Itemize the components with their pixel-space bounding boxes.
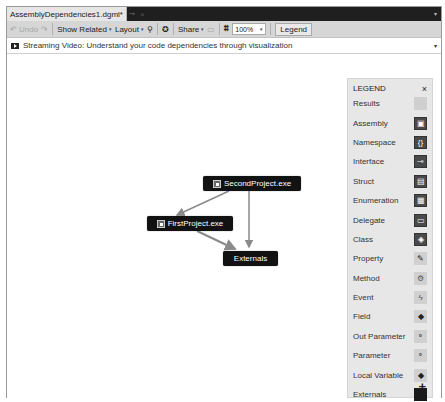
legend-title: LEGEND — [353, 84, 386, 93]
show-related-label: Show Related — [57, 25, 107, 34]
document-tab[interactable]: AssemblyDependencies1.dgml* ⊸ × — [7, 7, 127, 21]
graph-canvas[interactable]: SecondProject.exe FirstProject.exe Exter… — [7, 54, 441, 398]
node-label: Externals — [234, 254, 267, 263]
zoom-to-fit-button[interactable]: ⌗ — [224, 24, 229, 34]
legend-item-label: Interface — [353, 157, 384, 166]
struct-icon: ▤ — [414, 175, 427, 188]
legend-item-delegate[interactable]: Delegate ▭ — [348, 210, 432, 229]
assembly-icon — [157, 220, 165, 228]
legend-item-label: Local Variable — [353, 371, 403, 380]
undo-icon: ↶ — [10, 25, 17, 34]
legend-item-label: Class — [353, 235, 373, 244]
legend-item-class[interactable]: Class ◈ — [348, 230, 432, 249]
event-icon: ϟ — [414, 291, 427, 304]
document-tab-title: AssemblyDependencies1.dgml* — [10, 10, 123, 19]
code-map-settings-button[interactable]: ✪ — [162, 25, 169, 34]
zoom-level-select[interactable]: 100% ▾ — [232, 23, 266, 35]
wrench-icon: ✎ — [414, 252, 427, 265]
legend-item-label: Assembly — [353, 119, 388, 128]
document-tab-bar: AssemblyDependencies1.dgml* ⊸ × ▾ — [7, 7, 441, 21]
interface-icon: ⊸ — [414, 155, 427, 168]
legend-item-out-parameter[interactable]: Out Parameter ⚬ — [348, 327, 432, 346]
node-label: FirstProject.exe — [168, 219, 224, 228]
chevron-down-icon: ▾ — [141, 26, 144, 32]
close-icon[interactable]: × — [422, 84, 427, 94]
toolbar: ↶ Undo ↷ Show Related ▾ Layout ▾ ⚲ ✪ Sha… — [7, 21, 441, 38]
add-legend-item-icon[interactable]: + — [418, 379, 426, 394]
legend-item-label: Parameter — [353, 351, 390, 360]
legend-item-method[interactable]: Method ⚙ — [348, 269, 432, 288]
zoom-level-value: 100% — [235, 26, 253, 33]
close-tab-icon[interactable]: × — [140, 10, 145, 19]
legend-item-results[interactable]: Results — [348, 94, 432, 113]
legend-item-label: Method — [353, 274, 380, 283]
namespace-icon: {} — [414, 136, 427, 149]
comment-icon: ▭ — [207, 25, 215, 34]
info-bar: Streaming Video: Understand your code de… — [7, 38, 441, 54]
legend-item-label: Externals — [353, 390, 386, 399]
share-label: Share — [178, 25, 199, 34]
legend-item-field[interactable]: Field ◆ — [348, 307, 432, 326]
legend-item-label: Property — [353, 254, 383, 263]
redo-icon: ↷ — [41, 25, 48, 34]
comment-button[interactable]: ▭ — [207, 25, 215, 34]
legend-item-label: Struct — [353, 177, 374, 186]
node-label: SecondProject.exe — [224, 179, 291, 188]
legend-item-property[interactable]: Property ✎ — [348, 249, 432, 268]
legend-item-label: Namespace — [353, 138, 396, 147]
out-parameter-icon: ⚬ — [414, 330, 427, 343]
pin-icon[interactable]: ⊸ — [129, 10, 135, 18]
results-swatch-icon — [414, 97, 427, 110]
share-button[interactable]: Share ▾ — [178, 25, 204, 34]
legend-item-label: Results — [353, 99, 380, 108]
undo-button[interactable]: ↶ Undo — [10, 25, 38, 34]
toolbar-separator — [52, 23, 53, 35]
legend-item-interface[interactable]: Interface ⊸ — [348, 152, 432, 171]
layout-label: Layout — [115, 25, 139, 34]
class-icon: ◈ — [414, 233, 427, 246]
legend-item-struct[interactable]: Struct ▤ — [348, 172, 432, 191]
graph-node-first-project[interactable]: FirstProject.exe — [147, 216, 233, 231]
filter-icon: ⚲ — [147, 25, 153, 34]
redo-button[interactable]: ↷ — [41, 25, 48, 34]
dgml-editor-window: AssemblyDependencies1.dgml* ⊸ × ▾ ↶ Undo… — [6, 6, 442, 398]
settings-icon: ✪ — [162, 25, 169, 34]
legend-item-assembly[interactable]: Assembly ▣ — [348, 113, 432, 132]
edge-first-to-externals — [197, 231, 235, 249]
info-bar-link[interactable]: Streaming Video: Understand your code de… — [23, 41, 292, 50]
graph-node-externals[interactable]: Externals — [223, 251, 278, 266]
chevron-down-icon[interactable]: ▾ — [434, 42, 437, 49]
legend-panel: LEGEND × Results Assembly ▣ Namespace {}… — [347, 78, 433, 398]
edge-second-to-first — [177, 191, 229, 215]
legend-toggle-button[interactable]: Legend — [275, 23, 312, 36]
toolbar-separator — [157, 23, 158, 35]
method-icon: ⚙ — [414, 272, 427, 285]
toolbar-separator — [173, 23, 174, 35]
legend-item-event[interactable]: Event ϟ — [348, 288, 432, 307]
tab-overflow-icon[interactable]: ▾ — [434, 10, 437, 17]
legend-button-label: Legend — [280, 25, 307, 34]
filter-button[interactable]: ⚲ — [147, 25, 153, 34]
legend-item-label: Out Parameter — [353, 332, 405, 341]
legend-item-label: Delegate — [353, 216, 385, 225]
legend-item-parameter[interactable]: Parameter ⚬ — [348, 346, 432, 365]
show-related-button[interactable]: Show Related ▾ — [57, 25, 112, 34]
chevron-down-icon: ▾ — [109, 26, 112, 32]
enumeration-icon: ▦ — [414, 194, 427, 207]
graph-node-second-project[interactable]: SecondProject.exe — [203, 176, 301, 191]
zoom-to-fit-icon: ⌗ — [224, 24, 229, 34]
field-icon: ◆ — [414, 310, 427, 323]
parameter-icon: ⚬ — [414, 349, 427, 362]
toolbar-separator — [270, 23, 271, 35]
undo-label: Undo — [19, 25, 38, 34]
legend-item-enumeration[interactable]: Enumeration ▦ — [348, 191, 432, 210]
legend-item-label: Field — [353, 312, 370, 321]
legend-item-label: Enumeration — [353, 196, 398, 205]
delegate-icon: ▭ — [414, 214, 427, 227]
layout-button[interactable]: Layout ▾ — [115, 25, 144, 34]
video-icon — [11, 43, 19, 49]
toolbar-separator — [219, 23, 220, 35]
legend-item-namespace[interactable]: Namespace {} — [348, 133, 432, 152]
legend-item-label: Event — [353, 293, 373, 302]
chevron-down-icon: ▾ — [201, 26, 204, 32]
